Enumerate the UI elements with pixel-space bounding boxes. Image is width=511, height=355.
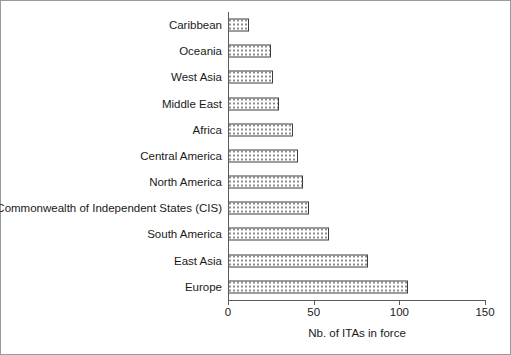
category-label: Africa xyxy=(193,124,228,136)
bar-row: Europe xyxy=(228,274,485,300)
bar xyxy=(228,228,329,241)
bar xyxy=(228,45,271,58)
bar xyxy=(228,123,293,136)
x-tick-label: 0 xyxy=(225,306,231,318)
category-label: North America xyxy=(149,176,228,188)
bar-row: North America xyxy=(228,169,485,195)
bar-row: Africa xyxy=(228,117,485,143)
x-tick-mark xyxy=(399,301,400,305)
category-label: South America xyxy=(147,228,228,240)
bar-row: Oceania xyxy=(228,38,485,64)
x-axis-title: Nb. of ITAs in force xyxy=(228,327,486,339)
category-label: East Asia xyxy=(174,255,228,267)
category-label: Oceania xyxy=(179,45,228,57)
category-label: West Asia xyxy=(171,71,228,83)
bar xyxy=(228,19,249,32)
plot-area: CaribbeanOceaniaWest AsiaMiddle EastAfri… xyxy=(228,12,485,300)
bar-row: Caribbean xyxy=(228,12,485,38)
bar xyxy=(228,176,303,189)
x-tick-mark xyxy=(485,301,486,305)
category-label: Central America xyxy=(140,150,228,162)
bar-row: West Asia xyxy=(228,64,485,90)
x-axis-line xyxy=(228,300,486,301)
x-tick-mark xyxy=(228,301,229,305)
y-axis-line xyxy=(228,12,229,301)
bar-row: Commonwealth of Independent States (CIS) xyxy=(228,195,485,221)
bar-row: Central America xyxy=(228,143,485,169)
bar xyxy=(228,149,298,162)
category-label: Middle East xyxy=(162,98,228,110)
x-tick-label: 150 xyxy=(475,306,494,318)
bar xyxy=(228,202,309,215)
bar xyxy=(228,254,368,267)
bar xyxy=(228,280,408,293)
category-label: Caribbean xyxy=(169,19,228,31)
x-tick-label: 100 xyxy=(390,306,409,318)
bar xyxy=(228,97,279,110)
category-label: Commonwealth of Independent States (CIS) xyxy=(0,202,228,214)
x-tick-mark xyxy=(314,301,315,305)
bar xyxy=(228,71,273,84)
bar-chart: Regional breakdown CaribbeanOceaniaWest … xyxy=(0,0,511,355)
bar-row: Middle East xyxy=(228,91,485,117)
x-tick-label: 50 xyxy=(307,306,320,318)
bar-row: South America xyxy=(228,221,485,247)
bar-row: East Asia xyxy=(228,248,485,274)
category-label: Europe xyxy=(185,281,228,293)
